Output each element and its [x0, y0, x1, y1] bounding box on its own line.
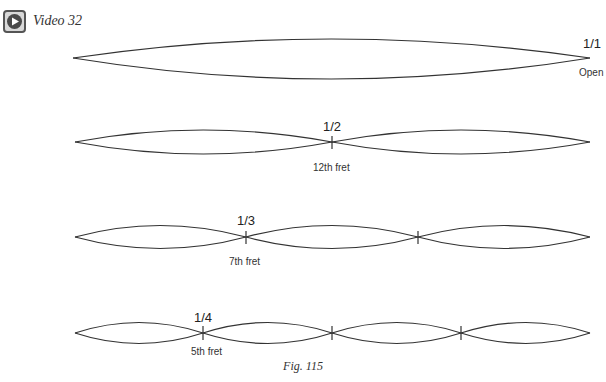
fret-label-quarter: 5th fret — [191, 346, 222, 357]
fret-label-half: 12th fret — [313, 162, 350, 173]
fret-label-third: 7th fret — [229, 256, 260, 267]
string-quarter — [75, 323, 590, 344]
fret-label-open: Open — [579, 67, 603, 78]
string-third — [75, 226, 590, 249]
string-open — [73, 39, 590, 79]
ratio-label-third: 1/3 — [237, 213, 255, 228]
ratio-label-open: 1/1 — [583, 36, 601, 51]
ratio-label-half: 1/2 — [323, 119, 341, 134]
ratio-label-quarter: 1/4 — [194, 310, 212, 325]
figure-caption: Fig. 115 — [0, 359, 606, 374]
harmonics-diagram — [0, 0, 606, 382]
